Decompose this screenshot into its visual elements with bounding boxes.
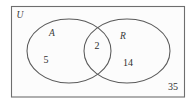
set-a-only-count: 5 [44,54,49,65]
intersection-count: 2 [95,40,100,51]
outside-sets-count: 35 [168,81,178,92]
venn-diagram-canvas: U A R 5 2 14 35 [0,0,195,104]
set-r-only-count: 14 [123,57,133,68]
venn-diagram-container: U A R 5 2 14 35 [0,0,195,104]
set-r-label: R [119,31,126,41]
universal-set-label: U [17,10,25,20]
universal-set-rectangle [12,7,185,98]
set-a-label: A [48,28,55,38]
